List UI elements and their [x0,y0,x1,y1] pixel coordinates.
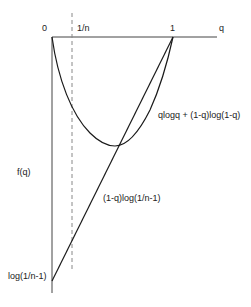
q-axis-label: q [219,23,224,33]
entropy-curve [52,37,173,146]
f-axis-label: f(q) [17,167,31,177]
one-label: 1 [170,23,175,33]
linear-line [52,37,173,281]
origin-label: 0 [42,23,47,33]
linear-line-label: (1-q)log(1/n-1) [103,193,161,203]
y-intercept-label: log(1/n-1) [8,271,47,281]
one-over-n-label: 1/n [77,23,90,33]
entropy-curve-label: qlogq + (1-q)log(1-q) [158,110,240,120]
diagram-canvas: 0 1/n 1 q f(q) log(1/n-1) qlogq + (1-q)l… [0,0,251,307]
